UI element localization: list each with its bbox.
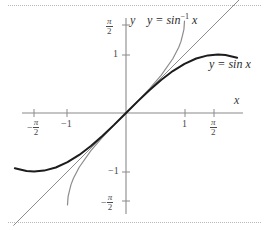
- y-tick-label-neg-1: −1: [108, 166, 119, 176]
- arcsin-curve-label: y = sin−1 x: [147, 13, 197, 26]
- x-tick-label-neg-pi-over-2: −π2: [27, 118, 39, 138]
- y-tick-label-pi-over-2: π2: [106, 17, 113, 37]
- x-tick-label-neg-1: −1: [61, 119, 72, 129]
- axes-group: [22, 18, 243, 214]
- sin-label-text: y = sin x: [209, 57, 251, 71]
- y-tick-label-1: 1: [113, 49, 118, 59]
- x-tick-label-1: 1: [182, 119, 187, 129]
- plot-canvas: [0, 0, 269, 230]
- y-tick-label-neg-pi-over-2: −π2: [101, 193, 113, 213]
- sin-curve-label: y = sin x: [209, 58, 251, 70]
- arcsin-label-prefix: y = sin: [147, 13, 180, 27]
- x-tick-label-pi-over-2: π2: [210, 118, 217, 138]
- arcsin-label-exponent: −1: [180, 12, 189, 21]
- arcsin-label-arg: x: [192, 13, 197, 27]
- x-axis-label: x: [234, 94, 239, 106]
- math-figure: −π2 −1 1 π2 π2 1 −1 −π2 y x y = sin−1 x …: [0, 0, 269, 230]
- y-axis-label: y: [130, 14, 135, 26]
